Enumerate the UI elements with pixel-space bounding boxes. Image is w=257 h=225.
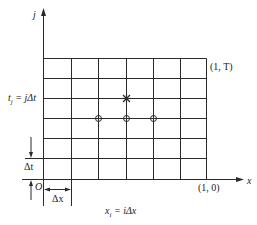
vertical-grid-lines bbox=[72, 59, 207, 207]
x-axis-label: x bbox=[247, 176, 251, 186]
star-marker-icon bbox=[122, 94, 131, 103]
delta-t-label: Δt bbox=[24, 162, 33, 172]
y-axis-label: j bbox=[33, 10, 36, 20]
delta-x-label: Δx bbox=[52, 194, 63, 204]
corner-label-top-right: (1, T) bbox=[210, 62, 233, 72]
horizontal-grid-lines bbox=[25, 59, 207, 159]
corner-label-bottom-right: (1, 0) bbox=[198, 183, 220, 193]
origin-label: O bbox=[35, 182, 42, 192]
space-point-label: xi = iΔx bbox=[105, 206, 136, 219]
time-level-label: tj = jΔt bbox=[8, 93, 36, 106]
x-axis-arrow-icon bbox=[236, 177, 244, 182]
y-axis-arrow-icon bbox=[41, 8, 46, 16]
delta-x-indicator bbox=[44, 188, 71, 192]
